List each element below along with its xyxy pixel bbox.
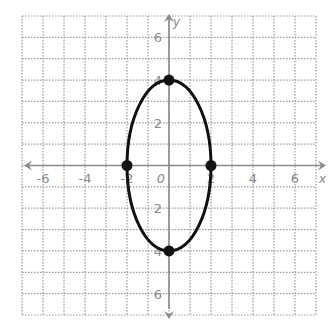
x-tick-label: 6 (291, 171, 299, 186)
x-tick-label: -6 (37, 171, 50, 186)
x-axis-label: x (318, 172, 327, 186)
y-tick-label: 2 (154, 201, 162, 216)
y-axis-label: y (172, 15, 181, 29)
x-tick-label: 0 (157, 171, 165, 186)
vertex-point (122, 160, 133, 171)
axes (24, 14, 326, 319)
tick-labels: -6-4-20246642246xy (37, 15, 327, 302)
vertex-point (164, 75, 175, 86)
vertex-point (164, 245, 175, 256)
y-tick-label: 6 (154, 287, 162, 302)
ellipse-graph: -6-4-20246642246xy (0, 0, 332, 329)
y-tick-label: 6 (154, 30, 162, 45)
x-tick-label: 4 (249, 171, 257, 186)
y-tick-label: 2 (154, 116, 162, 131)
vertex-point (206, 160, 217, 171)
x-tick-label: -4 (79, 171, 92, 186)
